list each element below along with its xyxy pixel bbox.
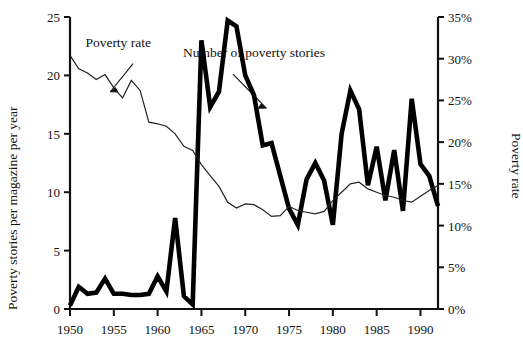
y-axis-right-title: Poverty rate: [509, 133, 523, 199]
y-tick-label-left: 0: [54, 302, 61, 317]
x-tick-label: 1975: [276, 322, 302, 337]
x-tick-label: 1950: [57, 322, 83, 337]
poverty-chart-figure: Poverty stories per magazine per year Po…: [0, 0, 523, 352]
y-tick-label-right: 30%: [448, 52, 472, 67]
x-tick-label: 1970: [232, 322, 258, 337]
x-tick-label: 1960: [145, 322, 171, 337]
arrowhead-number-of-stories: [258, 104, 266, 108]
x-tick-label: 1965: [188, 322, 214, 337]
y-tick-label-left: 20: [47, 68, 60, 83]
y-tick-label-left: 10: [47, 185, 60, 200]
annotation-arrow-number-of-stories: [233, 74, 266, 108]
y-tick-label-right: 20%: [448, 135, 472, 150]
x-tick-label: 1990: [407, 322, 433, 337]
y-tick-label-left: 25: [47, 10, 60, 25]
annotation-number-of-stories: Number of poverty stories: [183, 45, 325, 60]
y-tick-label-right: 5%: [448, 260, 466, 275]
annotation-poverty-rate: Poverty rate: [85, 35, 151, 50]
series-line-poverty-stories: [70, 21, 438, 306]
y-axis-left-title: Poverty stories per magazine per year: [5, 106, 20, 310]
annotation-arrow-poverty-rate: [110, 64, 133, 92]
x-tick-label: 1955: [101, 322, 127, 337]
y-tick-label-right: 0%: [448, 302, 466, 317]
y-tick-label-right: 25%: [448, 93, 472, 108]
x-tick-label: 1980: [320, 322, 346, 337]
y-tick-label-left: 15: [47, 127, 60, 142]
y-tick-label-right: 10%: [448, 219, 472, 234]
plot-area: 05101520250%5%10%15%20%25%30%35%19501955…: [47, 10, 472, 337]
chart-canvas: Poverty stories per magazine per year Po…: [0, 0, 523, 352]
y-tick-label-right: 35%: [448, 10, 472, 25]
y-tick-label-right: 15%: [448, 177, 472, 192]
y-tick-label-left: 5: [54, 244, 61, 259]
x-tick-label: 1985: [364, 322, 390, 337]
